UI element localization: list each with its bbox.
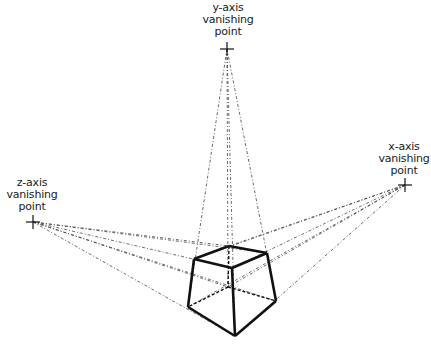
- cube-edge: [232, 253, 267, 268]
- x-construction-line: [229, 185, 405, 246]
- cube-hidden-edge: [228, 287, 276, 301]
- perspective-diagram: [0, 0, 431, 344]
- vanishing-point-crosses: [26, 42, 412, 229]
- z-construction-line: [33, 222, 276, 301]
- cube-edge: [194, 259, 232, 268]
- z-construction-line: [33, 222, 235, 336]
- cube-edge: [188, 307, 235, 336]
- y-construction-line: [227, 49, 228, 287]
- x-construction-line: [228, 185, 405, 287]
- cube-edge: [188, 259, 194, 307]
- cube: [188, 246, 276, 336]
- cube-edge: [229, 246, 267, 253]
- cube-hidden-edge: [228, 246, 229, 287]
- construction-lines: [33, 49, 405, 336]
- z-construction-line: [33, 222, 229, 246]
- cube-edge: [232, 268, 235, 336]
- cube-edge: [235, 301, 276, 336]
- cube-edge: [194, 246, 229, 259]
